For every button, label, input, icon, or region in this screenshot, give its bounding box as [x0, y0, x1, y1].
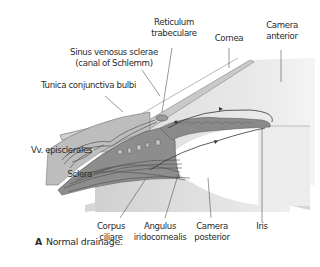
- label-sclera: Sclera: [40, 169, 92, 180]
- label-line: anterior: [260, 31, 304, 42]
- label-line: Angulus: [130, 221, 190, 232]
- label-sinus-venosus-sclerae: Sinus venosus sclerae (canal of Schlemm): [66, 47, 162, 69]
- label-iris: Iris: [250, 221, 274, 232]
- label-line: Camera: [190, 221, 234, 232]
- label-angulus-iridocornealis: Angulus iridocornealis: [130, 221, 190, 243]
- label-reticulum-trabeculare: Reticulum trabeculare: [146, 17, 202, 39]
- figure-caption: ANormal drainage.: [35, 236, 123, 247]
- label-line: Camera: [260, 20, 304, 31]
- label-line: trabeculare: [146, 28, 202, 39]
- label-camera-posterior: Camera posterior: [190, 221, 234, 243]
- caption-letter: A: [35, 236, 42, 247]
- caption-text: Normal drainage.: [46, 236, 123, 247]
- anatomy-figure: Reticulum trabeculare Cornea Camera ante…: [0, 0, 320, 267]
- flow-node: [174, 120, 177, 123]
- label-line: Corpus: [92, 221, 130, 232]
- iris-panel: [258, 126, 310, 206]
- label-vv-episclerales: Vv. episclerales: [8, 145, 92, 156]
- label-tunica-conjunctiva-bulbi: Tunica conjunctiva bulbi: [41, 80, 136, 91]
- label-line: iridocornealis: [130, 232, 190, 243]
- label-camera-anterior: Camera anterior: [260, 20, 304, 42]
- label-line: (canal of Schlemm): [66, 58, 162, 69]
- label-line: Reticulum: [146, 17, 202, 28]
- label-line: posterior: [190, 232, 234, 243]
- label-cornea: Cornea: [205, 33, 253, 44]
- label-line: Sinus venosus sclerae: [66, 47, 162, 58]
- trabecular-meshwork: [156, 115, 168, 121]
